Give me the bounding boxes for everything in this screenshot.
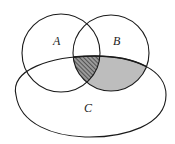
label-b: B (113, 34, 121, 48)
label-c: C (84, 101, 93, 115)
venn-diagram: A B C (0, 0, 175, 144)
set-a-circle (22, 14, 100, 92)
label-a: A (52, 34, 61, 48)
